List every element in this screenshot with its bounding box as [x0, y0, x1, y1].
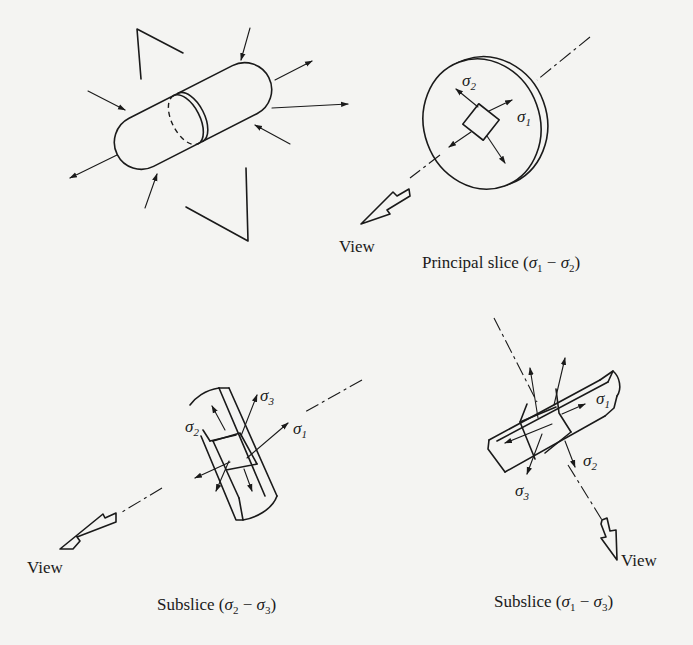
sigma-3-label: σ3	[260, 386, 274, 407]
subslice-bar	[190, 388, 277, 520]
view-arrow	[361, 189, 410, 224]
sigma-1-label: σ1	[596, 389, 610, 410]
view-label: View	[339, 237, 376, 256]
cylinder-specimen	[105, 53, 281, 178]
subslice-23-panel: σ3 σ2 σ1 View Subslice (σ2 − σ3)	[27, 380, 362, 616]
subslice-bar	[488, 371, 620, 472]
sigma-2-label: σ2	[185, 417, 199, 438]
subslice-23-caption: Subslice (σ2 − σ3)	[157, 595, 276, 616]
sigma-3-label: σ3	[515, 481, 529, 502]
subslice-13-panel: σ1 σ2 σ3 View Subslice (σ1 − σ3)	[488, 318, 658, 613]
subslice-13-caption: Subslice (σ1 − σ3)	[494, 592, 613, 613]
stress-arrows	[70, 28, 348, 208]
view-arrow	[601, 518, 617, 560]
principal-slice-caption: Principal slice (σ1 − σ2)	[422, 253, 580, 274]
view-arrow	[60, 513, 116, 549]
principal-slice-panel: σ2 σ1 View Principal slice (σ1 − σ2)	[339, 37, 590, 274]
view-label: View	[27, 558, 64, 577]
sigma-1-label: σ1	[293, 419, 307, 440]
view-axis	[537, 37, 590, 80]
section-mark-lower	[186, 168, 248, 241]
view-axis	[305, 380, 362, 412]
section-mark-upper	[137, 29, 183, 79]
view-axis	[494, 318, 537, 402]
specimen-panel	[70, 28, 348, 241]
slice-disc	[405, 42, 559, 206]
photoelastic-slicing-diagram: σ2 σ1 View Principal slice (σ1 − σ2) σ3 …	[0, 0, 693, 645]
view-label: View	[621, 551, 658, 570]
sigma-2-label: σ2	[583, 451, 597, 472]
